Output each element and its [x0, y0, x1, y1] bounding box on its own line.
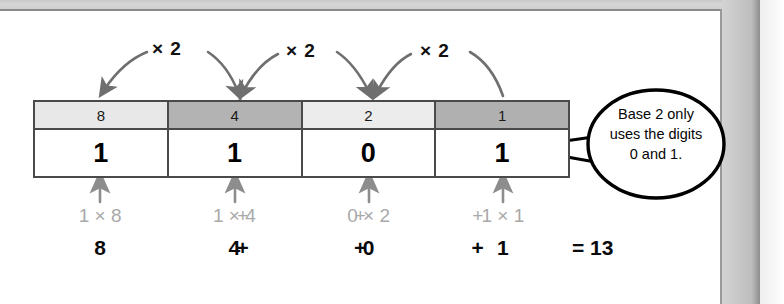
- callout-text: Base 2 only uses the digits 0 and 1.: [596, 104, 716, 164]
- place-value-cell-2: 2: [302, 101, 436, 129]
- page-top-border-rule: [0, 9, 722, 11]
- textbook-page-scan: × 2 × 2 × 2 8 4 2 1 1 1 0 1 1 × 8 1 × 4 …: [0, 0, 784, 304]
- multiply-label-2: × 2: [286, 40, 316, 62]
- place-value-header-row: 8 4 2 1: [34, 101, 569, 129]
- callout-line-1: Base 2 only: [596, 104, 716, 124]
- sum-operator-3: +: [386, 236, 571, 260]
- multiply-label-3: × 2: [420, 40, 450, 62]
- multiply-label-1: × 2: [152, 38, 182, 60]
- place-value-cell-8: 8: [34, 101, 168, 129]
- callout-line-2: uses the digits: [596, 124, 716, 144]
- binary-digit-cell-3: 0: [302, 129, 436, 177]
- term-operator-3: +: [386, 205, 571, 227]
- binary-digit-cell-2: 1: [168, 129, 302, 177]
- scan-right-gray-band: [722, 0, 760, 304]
- binary-digit-cell-1: 1: [34, 129, 168, 177]
- scan-far-right-margin: [760, 0, 784, 304]
- binary-digit-cell-4: 1: [435, 129, 569, 177]
- binary-digit-row: 1 1 0 1: [34, 129, 569, 177]
- expression-sums-operators: + + +: [33, 236, 570, 260]
- callout-line-3: 0 and 1.: [596, 144, 716, 164]
- expression-terms-operators: + + +: [33, 205, 570, 227]
- place-value-cell-4: 4: [168, 101, 302, 129]
- place-value-cell-1: 1: [435, 101, 569, 129]
- place-value-table: 8 4 2 1 1 1 0 1: [33, 100, 570, 178]
- total-result: = 13: [572, 236, 613, 260]
- scan-top-gray-band: [0, 0, 784, 9]
